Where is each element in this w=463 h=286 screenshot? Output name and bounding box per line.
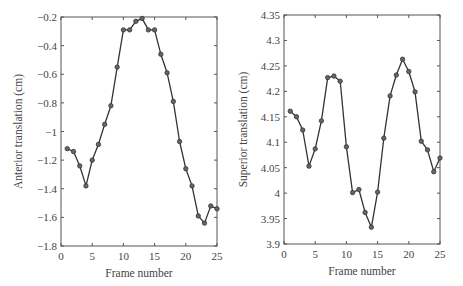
data-point-marker <box>294 115 298 119</box>
data-point-marker <box>332 74 336 78</box>
data-point-marker <box>313 147 317 151</box>
y-tick-label: −0.4 <box>37 40 57 52</box>
x-tick-label: 20 <box>180 250 192 262</box>
y-tick-label: 3.95 <box>261 213 281 225</box>
superior-translation-chart: 05101520253.93.9544.054.14.154.24.254.34… <box>237 9 446 277</box>
y-tick-label: 4.1 <box>266 136 280 148</box>
y-tick-label: 4.35 <box>261 9 281 21</box>
data-point-marker <box>177 139 181 143</box>
y-tick-label: 4.05 <box>261 162 281 174</box>
y-tick-label: −1.6 <box>37 211 57 223</box>
data-point-marker <box>202 221 206 225</box>
y-tick-label: −0.2 <box>37 11 57 23</box>
data-point-marker <box>184 167 188 171</box>
data-point-marker <box>369 225 373 229</box>
data-point-marker <box>109 104 113 108</box>
data-point-marker <box>215 207 219 211</box>
data-point-marker <box>196 214 200 218</box>
data-line <box>290 59 440 227</box>
x-tick-label: 15 <box>372 248 384 260</box>
x-tick-label: 5 <box>89 250 95 262</box>
y-tick-label: 4.25 <box>261 60 281 72</box>
x-tick-label: 10 <box>118 250 130 262</box>
data-point-marker <box>307 164 311 168</box>
y-tick-label: −1 <box>45 126 57 138</box>
x-tick-label: 25 <box>435 248 447 260</box>
x-tick-label: 25 <box>212 250 224 262</box>
x-tick-label: 5 <box>312 248 318 260</box>
data-point-marker <box>419 139 423 143</box>
data-point-marker <box>388 94 392 98</box>
x-tick-label: 20 <box>403 248 415 260</box>
x-tick-label: 0 <box>281 248 287 260</box>
y-axis-label: Anterior translation (cm) <box>12 74 25 189</box>
data-point-marker <box>159 52 163 56</box>
data-point-marker <box>338 79 342 83</box>
y-tick-label: −1.2 <box>37 154 57 166</box>
data-point-marker <box>350 190 354 194</box>
data-point-marker <box>134 19 138 23</box>
anterior-translation-chart: 0510152025−1.8−1.6−1.4−1.2−1−0.8−0.6−0.4… <box>12 11 223 279</box>
data-point-marker <box>171 99 175 103</box>
data-point-marker <box>319 119 323 123</box>
data-point-marker <box>190 184 194 188</box>
data-point-marker <box>140 16 144 20</box>
data-point-marker <box>90 158 94 162</box>
x-tick-label: 10 <box>341 248 353 260</box>
y-tick-label: −1.4 <box>37 183 57 195</box>
y-tick-label: 4.3 <box>266 34 280 46</box>
data-point-marker <box>400 57 404 61</box>
x-axis-label: Frame number <box>328 265 396 277</box>
data-point-marker <box>425 148 429 152</box>
data-line <box>67 18 217 223</box>
data-point-marker <box>96 142 100 146</box>
x-tick-label: 15 <box>149 250 161 262</box>
y-tick-label: −0.6 <box>37 68 57 80</box>
data-point-marker <box>65 146 69 150</box>
data-point-marker <box>152 28 156 32</box>
data-point-marker <box>357 187 361 191</box>
y-axis-label: Superior translation (cm) <box>237 72 250 188</box>
y-tick-label: −1.8 <box>37 240 57 252</box>
data-point-marker <box>438 156 442 160</box>
y-tick-label: 4 <box>275 187 281 199</box>
x-tick-label: 0 <box>58 250 64 262</box>
data-point-marker <box>301 128 305 132</box>
data-point-marker <box>121 28 125 32</box>
y-tick-label: −0.8 <box>37 97 57 109</box>
data-point-marker <box>127 28 131 32</box>
data-point-marker <box>325 75 329 79</box>
data-point-marker <box>146 28 150 32</box>
plot-area <box>61 17 217 246</box>
data-point-marker <box>102 122 106 126</box>
data-point-marker <box>375 190 379 194</box>
data-point-marker <box>84 184 88 188</box>
data-point-marker <box>71 149 75 153</box>
data-point-marker <box>78 164 82 168</box>
y-tick-label: 4.15 <box>261 111 281 123</box>
data-point-marker <box>165 71 169 75</box>
plot-area <box>284 15 440 244</box>
x-axis-label: Frame number <box>105 267 173 279</box>
data-point-marker <box>209 204 213 208</box>
data-point-marker <box>432 170 436 174</box>
y-tick-label: 3.9 <box>266 238 280 250</box>
data-point-marker <box>363 210 367 214</box>
data-point-marker <box>344 145 348 149</box>
data-point-marker <box>407 69 411 73</box>
data-point-marker <box>115 65 119 69</box>
y-tick-label: 4.2 <box>266 85 280 97</box>
data-point-marker <box>394 73 398 77</box>
data-point-marker <box>382 136 386 140</box>
figure: 0510152025−1.8−1.6−1.4−1.2−1−0.8−0.6−0.4… <box>0 0 463 286</box>
data-point-marker <box>288 109 292 113</box>
data-point-marker <box>413 90 417 94</box>
